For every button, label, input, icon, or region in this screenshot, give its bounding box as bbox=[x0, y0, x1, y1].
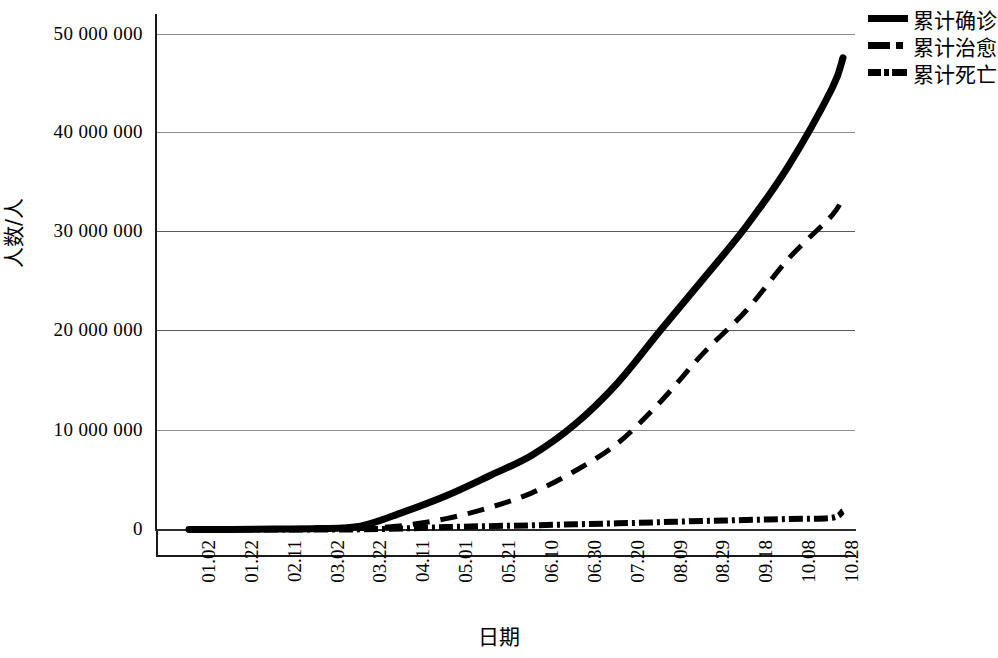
legend-item-cured[interactable]: 累计治愈 bbox=[866, 33, 997, 58]
legend-label-deaths: 累计死亡 bbox=[913, 58, 997, 88]
chart-legend: 累计确诊 累计治愈 累计死亡 bbox=[866, 6, 997, 85]
solid-line-key bbox=[866, 6, 910, 31]
legend-label-confirmed: 累计确诊 bbox=[913, 4, 997, 34]
legend-label-cured: 累计治愈 bbox=[913, 31, 997, 61]
series-line-confirmed bbox=[189, 58, 843, 530]
dash-dot-dash-line-key bbox=[866, 60, 910, 85]
legend-item-deaths[interactable]: 累计死亡 bbox=[866, 60, 997, 85]
series-line-cured bbox=[189, 197, 843, 530]
series-curves bbox=[0, 0, 998, 658]
covid-cumulative-line-chart: 50 000 000 40 000 000 30 000 000 20 000 … bbox=[0, 0, 998, 658]
legend-item-confirmed[interactable]: 累计确诊 bbox=[866, 6, 997, 31]
dash-dot-line-key bbox=[866, 33, 910, 58]
